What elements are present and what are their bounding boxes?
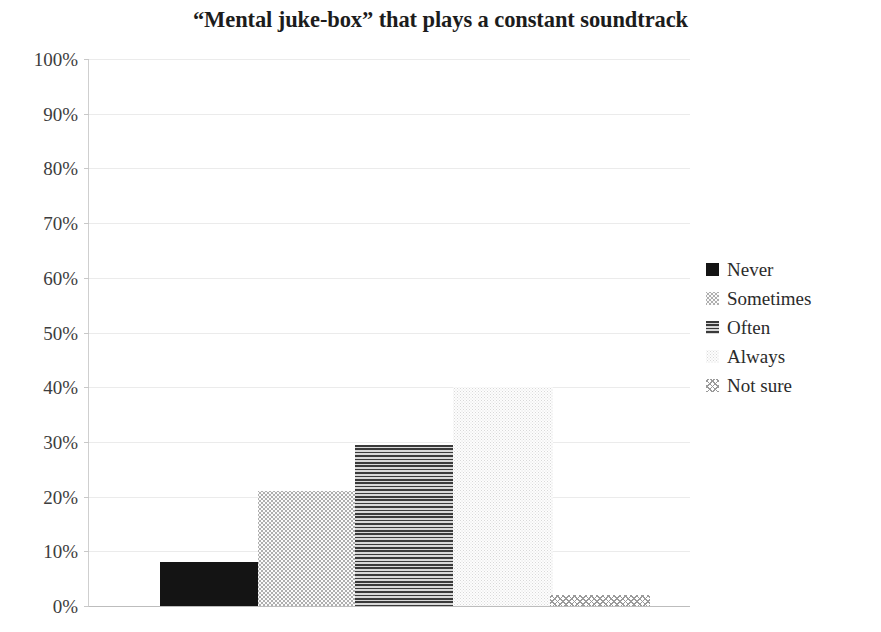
legend-swatch-icon <box>706 263 719 276</box>
legend-swatch-icon <box>706 379 719 392</box>
y-axis-tickmark <box>84 387 89 388</box>
y-axis-tickmark <box>84 497 89 498</box>
y-axis-tickmark <box>84 442 89 443</box>
gridline <box>88 114 690 115</box>
legend-item-label: Never <box>727 260 773 279</box>
legend-swatch-icon <box>706 350 719 363</box>
y-axis-tick-label: 20% <box>6 488 78 507</box>
bar-not-sure[interactable] <box>550 595 650 606</box>
x-axis-line <box>88 606 690 607</box>
plot-area <box>88 59 690 606</box>
gridline <box>88 333 690 334</box>
y-axis-tickmark <box>84 333 89 334</box>
y-axis-tickmark <box>84 551 89 552</box>
legend-item-label: Not sure <box>727 376 792 395</box>
y-axis-tick-label: 50% <box>6 324 78 343</box>
bar-sometimes[interactable] <box>258 491 358 606</box>
y-axis-tickmark <box>84 168 89 169</box>
legend-item-not-sure[interactable]: Not sure <box>706 371 876 400</box>
gridline <box>88 278 690 279</box>
y-axis-tick-label: 0% <box>6 597 78 616</box>
gridline <box>88 168 690 169</box>
chart-legend: NeverSometimesOftenAlwaysNot sure <box>706 255 876 400</box>
legend-item-sometimes[interactable]: Sometimes <box>706 284 876 313</box>
y-axis-tick-label: 90% <box>6 105 78 124</box>
legend-swatch-icon <box>706 292 719 305</box>
chart-title: “Mental juke-box” that plays a constant … <box>0 7 881 33</box>
legend-item-often[interactable]: Often <box>706 313 876 342</box>
gridline <box>88 223 690 224</box>
y-axis-tickmark <box>84 114 89 115</box>
y-axis-tick-label: 10% <box>6 542 78 561</box>
y-axis-tick-label: 30% <box>6 433 78 452</box>
bar-always[interactable] <box>453 387 553 606</box>
legend-item-never[interactable]: Never <box>706 255 876 284</box>
legend-item-always[interactable]: Always <box>706 342 876 371</box>
y-axis-tick-label: 40% <box>6 378 78 397</box>
legend-swatch-icon <box>706 321 719 334</box>
y-axis-tick-label: 70% <box>6 214 78 233</box>
y-axis-tick-label: 80% <box>6 159 78 178</box>
y-axis-tickmark <box>84 606 89 607</box>
y-axis-tickmark <box>84 278 89 279</box>
legend-item-label: Often <box>727 318 770 337</box>
gridline <box>88 59 690 60</box>
legend-item-label: Sometimes <box>727 289 811 308</box>
bar-never[interactable] <box>160 562 260 606</box>
y-axis-tickmark <box>84 59 89 60</box>
gridline <box>88 387 690 388</box>
bar-often[interactable] <box>355 445 455 606</box>
y-axis-tickmark <box>84 223 89 224</box>
gridline <box>88 442 690 443</box>
legend-item-label: Always <box>727 347 785 366</box>
y-axis-tick-label: 100% <box>6 50 78 69</box>
y-axis-tick-label: 60% <box>6 269 78 288</box>
